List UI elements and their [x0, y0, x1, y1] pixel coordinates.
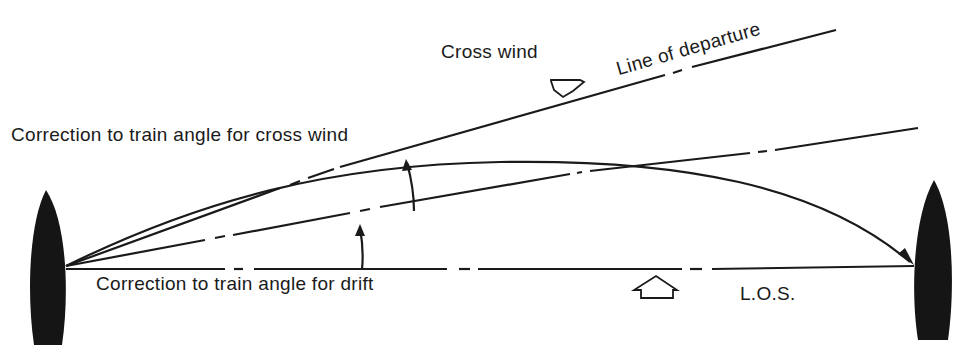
firing-ship [30, 190, 66, 345]
line-of-departure [66, 30, 836, 266]
correction-drift-label: Correction to train angle for drift [96, 273, 374, 295]
crosswind-arc-arrowhead [402, 159, 412, 171]
cross-wind-arrow-icon [551, 80, 584, 97]
torpedo-trajectory [66, 162, 910, 266]
correction-cross-wind-label: Correction to train angle for cross wind [11, 124, 348, 146]
drift-arc-arrowhead [355, 224, 365, 236]
drift-arrow-icon [634, 276, 677, 298]
los-label: L.O.S. [740, 283, 796, 305]
trajectory-arrowhead [898, 248, 914, 265]
target-ship [914, 180, 952, 340]
cross-wind-label: Cross wind [441, 41, 538, 63]
los-line [66, 266, 914, 269]
